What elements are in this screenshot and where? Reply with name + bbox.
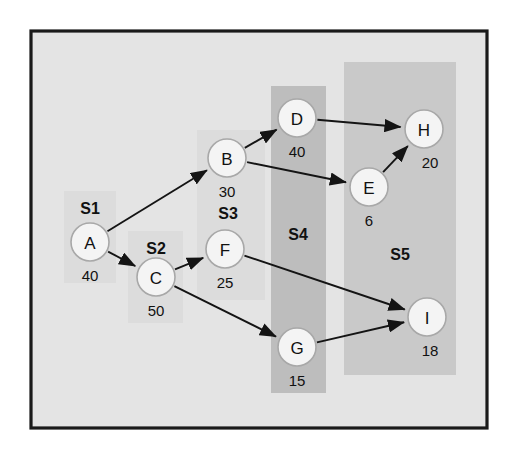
node-label-i: I — [425, 309, 430, 328]
node-label-e: E — [363, 179, 374, 198]
stage-label-s1: S1 — [80, 200, 100, 217]
node-label-h: H — [418, 121, 430, 140]
node-weight-h: 20 — [422, 154, 439, 171]
node-label-d: D — [291, 110, 303, 129]
diagram-figure: S1S2S3S4S5 A40B30C50D40E6F25G15H20I18 — [0, 0, 515, 451]
node-label-g: G — [290, 339, 303, 358]
stage-label-s3: S3 — [218, 205, 238, 222]
node-weight-a: 40 — [82, 267, 99, 284]
node-weight-g: 15 — [289, 372, 306, 389]
node-weight-c: 50 — [148, 302, 165, 319]
stage-label-s4: S4 — [288, 226, 308, 243]
stage-label-s5: S5 — [390, 246, 410, 263]
node-label-a: A — [84, 234, 96, 253]
graph-canvas: S1S2S3S4S5 A40B30C50D40E6F25G15H20I18 — [0, 0, 515, 451]
node-weight-b: 30 — [219, 183, 236, 200]
node-weight-f: 25 — [217, 274, 234, 291]
stage-label-s2: S2 — [146, 240, 166, 257]
node-label-b: B — [221, 150, 232, 169]
node-weight-d: 40 — [289, 143, 306, 160]
node-weight-e: 6 — [365, 212, 373, 229]
node-weight-i: 18 — [422, 342, 439, 359]
node-label-c: C — [150, 269, 162, 288]
node-label-f: F — [220, 241, 230, 260]
